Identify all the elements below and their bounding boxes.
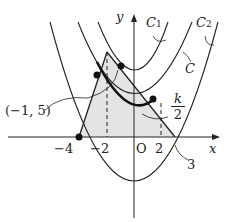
leader-c1 (153, 36, 166, 41)
tick-minus2: −2 (90, 142, 109, 155)
y-axis-label: y (116, 10, 123, 23)
point-right (150, 96, 157, 103)
y-axis-arrow (131, 14, 137, 22)
point-label: (−1, 5) (5, 104, 51, 117)
x-axis-label: x (209, 142, 216, 155)
label-c1: C1 (146, 16, 162, 29)
label-c: C (185, 62, 195, 75)
label-3: 3 (187, 158, 195, 171)
x-axis-arrow (212, 134, 220, 140)
origin-label: O (136, 142, 147, 155)
point-top (118, 63, 125, 70)
label-c2: C2 (196, 16, 212, 29)
point-left (94, 72, 101, 79)
fraction-k-over-2: k 2 (171, 92, 185, 121)
tick-2: 2 (155, 142, 163, 155)
diagram: y x O −4 −2 2 C1 C2 C (−1, 5) k 2 3 (0, 0, 227, 222)
curve-c (78, 22, 192, 94)
tick-minus4: −4 (54, 142, 73, 155)
point-minus4 (76, 134, 83, 141)
